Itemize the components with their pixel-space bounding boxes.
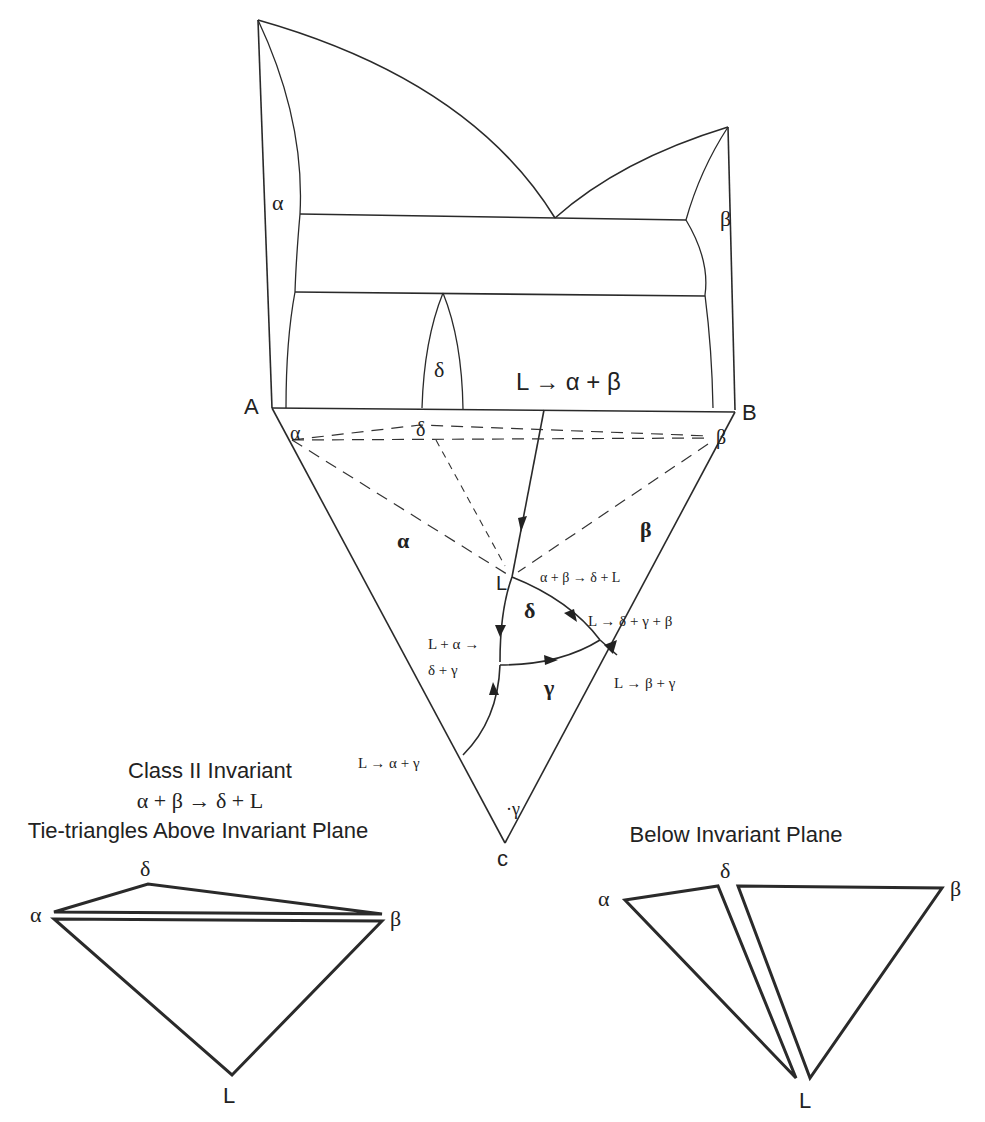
edge-A-C — [272, 408, 505, 843]
liquidus-right — [555, 127, 728, 218]
tie-alpha-delta-beta — [292, 425, 710, 440]
tie-label-delta: δ — [416, 418, 425, 440]
title-line-3: Tie-triangles Above Invariant Plane — [28, 818, 368, 843]
below-L: L — [799, 1088, 811, 1113]
delta-right — [443, 293, 463, 409]
corner-A: A — [244, 394, 259, 419]
reaction-l-alpha-gamma: L → α + γ — [358, 755, 420, 771]
reaction-l-delta-gamma-beta: L → δ + γ + β — [588, 613, 672, 629]
triangle-alpha-beta-L — [54, 919, 382, 1075]
curve-alpha-gamma — [463, 665, 500, 755]
above-alpha: α — [30, 902, 42, 927]
triangle-alpha-delta-beta — [54, 884, 382, 914]
tie-label-beta: β — [716, 426, 726, 449]
reaction-l-beta-gamma: L → β + γ — [614, 675, 676, 691]
below-tie-triangles: α δ β L — [598, 858, 961, 1113]
above-delta: δ — [140, 856, 150, 881]
reaction-class2: α + β → δ + L — [540, 570, 620, 585]
arrow-icon — [518, 516, 527, 532]
label-beta: β — [720, 206, 731, 231]
right-edge — [728, 127, 735, 410]
upper-invariant-line — [300, 214, 686, 220]
phase-diagram: α β δ L → α + β A B α δ β α β — [0, 0, 985, 1122]
above-beta: β — [390, 906, 401, 931]
curve-binary-to-L — [512, 410, 544, 577]
reaction-l-alpha: L + α → — [428, 636, 479, 652]
above-L: L — [223, 1083, 235, 1108]
below-delta: δ — [720, 858, 730, 883]
reaction-delta-gamma: δ + γ — [428, 662, 458, 678]
region-delta: δ — [524, 598, 535, 623]
ternary-projection: α δ β α β δ γ L α + β → δ + L L + α → δ … — [272, 408, 735, 871]
point-L: L — [496, 572, 507, 594]
below-beta: β — [950, 876, 961, 901]
label-alpha: α — [272, 190, 284, 215]
region-gamma: γ — [543, 675, 554, 700]
below-title: Below Invariant Plane — [630, 822, 843, 847]
title-block: Class II Invariant α + β → δ + L Tie-tri… — [28, 758, 843, 847]
title-line-1: Class II Invariant — [128, 758, 292, 783]
tie-beta-L — [518, 444, 708, 572]
arrow-icon — [544, 655, 558, 665]
lower-invariant-line — [295, 292, 705, 296]
corner-gamma: ·γ — [506, 799, 520, 819]
tie-alpha-beta — [292, 438, 710, 440]
arrow-icon — [495, 625, 506, 637]
triangle-alpha-delta-L — [625, 886, 796, 1078]
binary-ab-diagram: α β δ L → α + β A B — [244, 20, 757, 425]
arrow-icon — [604, 640, 617, 654]
tie-delta-L — [436, 440, 505, 566]
beta-boundary — [686, 127, 728, 408]
liquidus-left — [258, 20, 555, 218]
ab-baseline — [272, 408, 735, 412]
region-alpha: α — [397, 528, 410, 553]
corner-C: c — [497, 846, 508, 871]
left-edge — [258, 20, 272, 408]
above-tie-triangles: α δ β L — [30, 856, 401, 1108]
title-line-2: α + β → δ + L — [137, 788, 263, 813]
arrow-icon — [564, 609, 577, 622]
corner-B: B — [742, 400, 757, 425]
below-alpha: α — [598, 886, 610, 911]
delta-left — [422, 293, 443, 408]
label-reaction-ab: L → α + β — [516, 368, 621, 395]
tie-label-alpha: α — [290, 422, 301, 444]
region-beta: β — [640, 517, 652, 542]
label-delta: δ — [434, 357, 444, 382]
